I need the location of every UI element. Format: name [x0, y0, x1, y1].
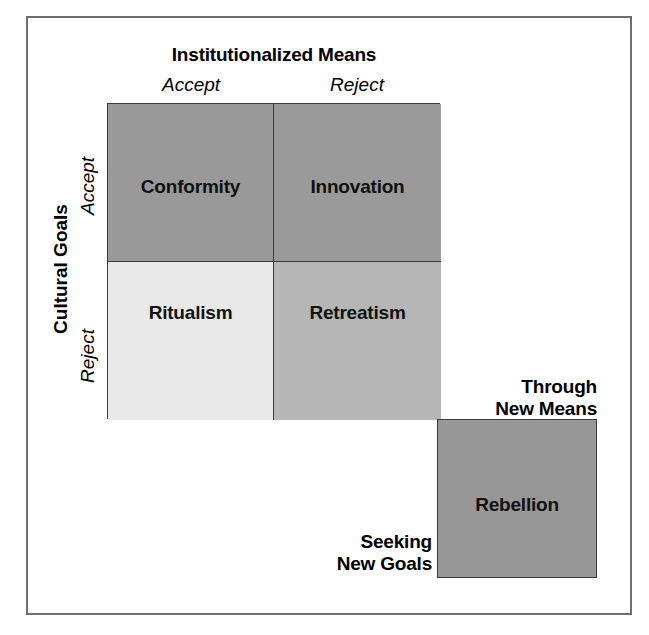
merton-strain-typology-figure: Institutionalized Means Accept Reject Cu…: [0, 0, 649, 635]
annotation-seeking-new-goals: Seeking New Goals: [262, 531, 432, 576]
row-header-reject: Reject: [77, 296, 99, 416]
annotation-through-new-means: Through New Means: [437, 376, 597, 421]
matrix-cell-retreatism[interactable]: Retreatism: [274, 262, 441, 420]
y-axis-title: Cultural Goals: [50, 169, 72, 369]
matrix-cell-conformity[interactable]: Conformity: [108, 104, 274, 262]
annotation-through-new-means-line2: New Means: [437, 398, 597, 420]
matrix-cell-ritualism[interactable]: Ritualism: [108, 262, 274, 420]
matrix-cell-conformity-label: Conformity: [141, 176, 240, 198]
annotation-through-new-means-line1: Through: [437, 376, 597, 398]
column-header-accept: Accept: [108, 74, 274, 96]
matrix-cell-rebellion-label: Rebellion: [475, 494, 559, 516]
annotation-seeking-new-goals-line1: Seeking: [262, 531, 432, 553]
matrix-cell-innovation-label: Innovation: [310, 176, 404, 198]
column-header-reject: Reject: [274, 74, 440, 96]
typology-matrix: Conformity Innovation Ritualism Retreati…: [107, 103, 440, 419]
row-header-accept: Accept: [77, 126, 99, 246]
matrix-cell-retreatism-label: Retreatism: [309, 302, 405, 324]
annotation-seeking-new-goals-line2: New Goals: [262, 553, 432, 575]
x-axis-title: Institutionalized Means: [108, 44, 440, 66]
matrix-cell-rebellion[interactable]: Rebellion: [437, 419, 597, 578]
matrix-cell-ritualism-label: Ritualism: [149, 302, 233, 324]
matrix-cell-innovation[interactable]: Innovation: [274, 104, 441, 262]
